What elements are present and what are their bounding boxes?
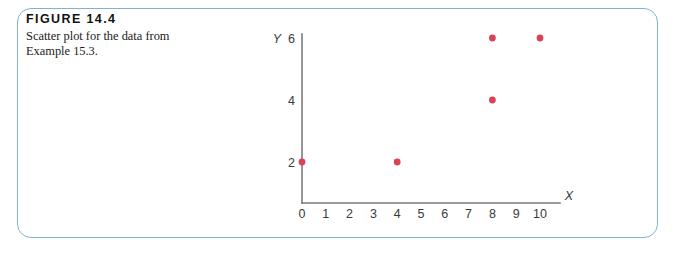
data-point [489,97,496,104]
x-tick-label: 6 [441,207,448,221]
y-tick-label: 2 [288,156,295,170]
data-points-group [299,35,544,166]
caption-line-2: Example 15.3. [26,44,236,59]
x-axis-tick-labels: 012345678910 [299,207,547,221]
x-tick-label: 2 [346,207,353,221]
figure-number-label: FIGURE 14.4 [26,12,236,27]
caption-line-1: Scatter plot for the data from [26,29,236,44]
figure-caption-text: Scatter plot for the data from Example 1… [26,29,236,58]
scatter-plot: 012345678910 246 YX [255,20,585,225]
x-tick-label: 10 [533,207,547,221]
x-tick-label: 8 [489,207,496,221]
axis-titles-group: YX [273,32,574,204]
figure-caption-block: FIGURE 14.4 Scatter plot for the data fr… [26,12,236,58]
y-tick-label: 4 [288,94,295,108]
x-tick-label: 5 [418,207,425,221]
data-point [394,159,401,166]
x-tick-label: 4 [394,207,401,221]
x-tick-label: 7 [465,207,472,221]
x-tick-label: 0 [299,207,306,221]
data-point [489,35,496,42]
x-tick-label: 3 [370,207,377,221]
scatter-plot-canvas: 012345678910 246 YX [255,20,585,225]
x-tick-label: 1 [322,207,329,221]
y-tick-label: 6 [288,32,295,46]
data-point [299,159,306,166]
x-tick-label: 9 [513,207,520,221]
x-axis-title: X [564,189,574,203]
y-axis-tick-labels: 246 [288,32,295,170]
axes-group [302,34,560,203]
data-point [537,35,544,42]
y-axis-title: Y [273,32,283,46]
